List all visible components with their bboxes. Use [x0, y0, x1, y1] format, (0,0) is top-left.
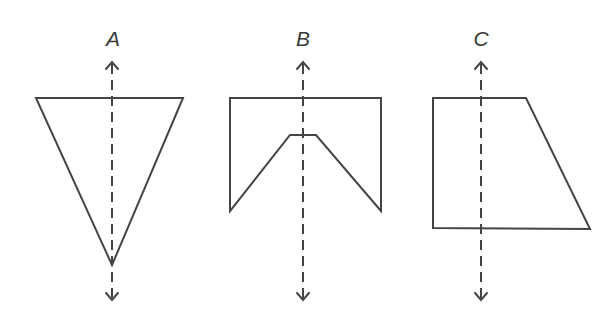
figure-a: A — [36, 27, 183, 300]
figure-b-shape — [230, 98, 381, 211]
figure-c-label: C — [473, 27, 489, 50]
figure-c: C — [433, 27, 590, 300]
figure-c-shape — [433, 98, 590, 229]
figure-a-label: A — [104, 27, 120, 50]
figure-b: B — [230, 27, 381, 300]
symmetry-diagram: A B C — [0, 0, 616, 331]
figure-b-label: B — [296, 27, 310, 50]
figure-a-shape — [36, 98, 183, 265]
